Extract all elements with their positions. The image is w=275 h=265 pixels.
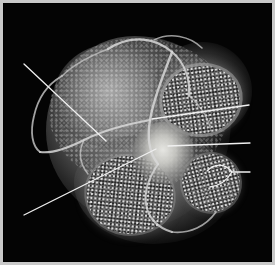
annotation-overlay: [0, 0, 275, 265]
leader-line-5: [24, 149, 156, 215]
leader-line-4: [24, 64, 106, 141]
leader-line-1: [168, 143, 250, 146]
leader-line-3: [152, 105, 249, 119]
leader-line-2: [207, 165, 250, 187]
figure-container: 1 2 3 4 5: [0, 0, 275, 265]
